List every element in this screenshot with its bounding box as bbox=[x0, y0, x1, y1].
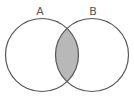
venn-diagram: A B bbox=[0, 0, 134, 100]
set-b-label: B bbox=[89, 5, 97, 18]
set-a-label: A bbox=[36, 5, 44, 18]
